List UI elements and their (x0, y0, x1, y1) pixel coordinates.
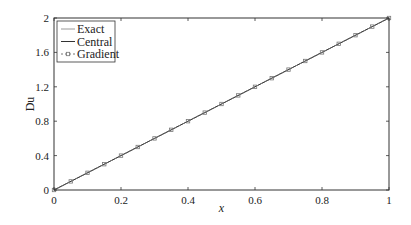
x-tick-label: 0.6 (248, 194, 262, 206)
x-tick-label: 0.4 (181, 194, 195, 206)
chart: 00.20.40.60.8100.40.81.21.62xDu ExactCen… (0, 0, 411, 225)
y-tick-label: 0.4 (35, 150, 49, 162)
legend: ExactCentralGradient (57, 21, 120, 62)
legend-label-gradient: Gradient (77, 47, 120, 61)
y-axis-label: Du (23, 97, 37, 112)
y-tick-label: 0 (44, 184, 50, 196)
x-axis-label: x (218, 201, 225, 215)
x-tick-label: 0.8 (315, 194, 329, 206)
x-tick-label: 0 (51, 194, 57, 206)
y-tick-label: 0.8 (35, 115, 49, 127)
y-tick-label: 1.2 (35, 81, 49, 93)
y-tick-label: 2 (44, 12, 50, 24)
x-tick-label: 1 (386, 194, 392, 206)
x-tick-label: 0.2 (114, 194, 128, 206)
y-tick-label: 1.6 (35, 46, 49, 58)
